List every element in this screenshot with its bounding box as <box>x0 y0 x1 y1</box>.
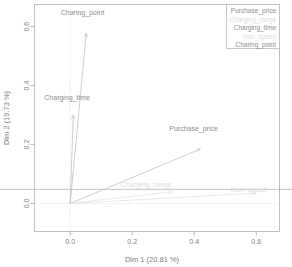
x-tick-label-3: 0.6 <box>251 238 261 245</box>
y-axis-ticks: 0.00.20.40.6 <box>23 22 34 209</box>
legend-item-charging_time[interactable]: Charging_time <box>234 24 277 32</box>
x-tick-label-1: 0.2 <box>127 238 137 245</box>
variable-vectors <box>70 33 256 203</box>
x-axis-title: Dim 1 (20.81 %) <box>125 255 180 264</box>
x-tick-label-0: 0.0 <box>65 238 75 245</box>
label-purchase_price: Purchase_price <box>169 125 218 133</box>
legend-item-charging_range[interactable]: Charging_range <box>229 16 276 24</box>
legend-item-max_speed[interactable]: Max_speed <box>242 33 276 41</box>
vector-max_speed <box>70 193 256 203</box>
arrowhead-charging_range-1 <box>168 191 172 192</box>
y-tick-label-3: 0.6 <box>23 22 30 32</box>
x-axis-ticks: 0.00.20.40.6 <box>65 232 261 245</box>
legend[interactable]: Purchase_priceCharging_rangeCharging_tim… <box>227 5 280 50</box>
y-tick-label-1: 0.2 <box>23 140 30 150</box>
label-charging_time: Charging_time <box>44 94 90 102</box>
y-tick-label-0: 0.0 <box>23 199 30 209</box>
y-axis-title: Dim 2 (19.73 %) <box>2 90 11 145</box>
label-charing_point: Charing_point <box>61 9 105 17</box>
legend-items[interactable]: Purchase_priceCharging_rangeCharging_tim… <box>229 7 276 49</box>
label-max_speed: Max_speed <box>230 186 266 194</box>
x-tick-label-2: 0.4 <box>189 238 199 245</box>
label-charging_range: Charging_range <box>121 181 171 189</box>
y-tick-label-2: 0.4 <box>23 81 30 91</box>
vector-charging_range <box>70 192 172 204</box>
vector-purchase_price <box>70 149 200 204</box>
legend-item-charing_point[interactable]: Charing_point <box>236 41 277 49</box>
chart-canvas: Charing_pointCharging_timePurchase_price… <box>0 0 292 267</box>
legend-item-purchase_price[interactable]: Purchase_price <box>231 7 277 15</box>
vector-charing_point <box>70 33 86 203</box>
pca-variable-factor-map: Charing_pointCharging_timePurchase_price… <box>0 0 292 267</box>
